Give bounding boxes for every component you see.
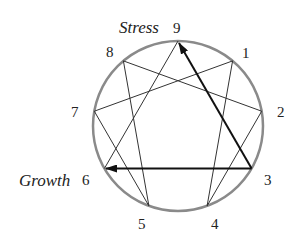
point-label-1: 1 <box>242 45 250 61</box>
point-label-4: 4 <box>211 216 219 232</box>
growth-annotation: Growth <box>19 171 70 190</box>
point-label-2: 2 <box>277 104 285 120</box>
stress-annotation: Stress <box>119 18 159 37</box>
stress-arrow <box>179 43 252 169</box>
point-label-8: 8 <box>106 44 114 60</box>
point-label-5: 5 <box>138 216 146 232</box>
enneagram-circle <box>93 41 263 211</box>
point-label-3: 3 <box>264 172 272 188</box>
point-label-9: 9 <box>173 20 181 36</box>
point-label-6: 6 <box>82 172 90 188</box>
triangle-line-9-6 <box>104 41 178 169</box>
enneagram-diagram: 9 1 2 3 4 5 6 7 8 Stress Growth <box>0 0 303 242</box>
hexad-lines <box>94 61 261 206</box>
point-label-7: 7 <box>71 104 79 120</box>
